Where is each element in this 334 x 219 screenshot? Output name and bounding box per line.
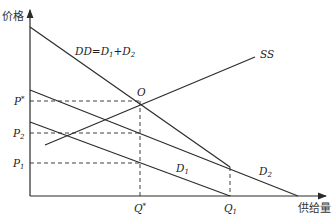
demand-curve-d2 [30,90,298,196]
x-axis-label: 供给量 [298,201,331,215]
quantity-q1-label: Q1 [224,202,237,216]
ss-label: SS [260,48,274,60]
d2-label: D2 [258,165,272,179]
price-p2-label: P2 [12,127,25,141]
dd-label: DD=D1+D2 [74,45,136,59]
supply-demand-diagram: 价格 供给量 DD=D1+D2 SS D1 D2 O P* P2 P1 Q* [0,0,334,219]
supply-curve [45,57,255,145]
price-p1-label: P1 [12,157,25,171]
y-axis-label: 价格 [2,9,24,23]
equilibrium-point-label: O [137,86,146,98]
price-p-star-label: P* [13,95,25,107]
quantity-q-star-label: Q* [134,202,147,215]
d1-label: D1 [175,162,189,176]
